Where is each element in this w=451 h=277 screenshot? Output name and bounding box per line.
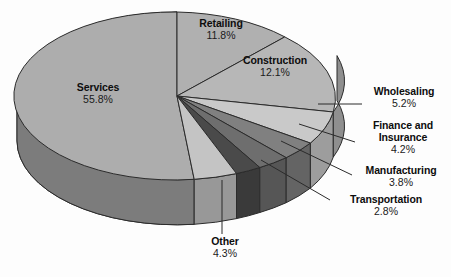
slice-label-services-percent: 55.8% bbox=[56, 94, 140, 106]
slice-label-services-name: Services bbox=[56, 82, 140, 94]
slice-label-manufacturing-percent: 3.8% bbox=[352, 177, 450, 189]
slice-label-finance-name2: Insurance bbox=[358, 132, 448, 144]
side-wall-other bbox=[194, 174, 236, 225]
slice-label-wholesaling-percent: 5.2% bbox=[360, 98, 448, 110]
slice-label-retailing-name: Retailing bbox=[183, 18, 259, 30]
slice-label-construction-name: Construction bbox=[228, 55, 322, 67]
slice-label-other-name: Other bbox=[194, 236, 256, 248]
slice-label-wholesaling-name: Wholesaling bbox=[360, 86, 448, 98]
slice-label-manufacturing: Manufacturing 3.8% bbox=[352, 165, 450, 189]
slice-label-services: Services 55.8% bbox=[56, 82, 140, 106]
slice-label-finance: Finance and Insurance 4.2% bbox=[358, 120, 448, 155]
slice-label-transportation-percent: 2.8% bbox=[322, 206, 450, 218]
slice-label-retailing: Retailing 11.8% bbox=[183, 18, 259, 42]
slice-label-finance-percent: 4.2% bbox=[358, 144, 448, 156]
side-wall-transportation bbox=[237, 168, 260, 219]
slice-label-construction-percent: 12.1% bbox=[228, 67, 322, 79]
slice-label-wholesaling: Wholesaling 5.2% bbox=[360, 86, 448, 110]
slice-label-construction: Construction 12.1% bbox=[228, 55, 322, 79]
slice-label-transportation-name: Transportation bbox=[322, 194, 450, 206]
slice-label-other: Other 4.3% bbox=[194, 236, 256, 260]
slice-label-retailing-percent: 11.8% bbox=[183, 30, 259, 42]
slice-label-transportation: Transportation 2.8% bbox=[322, 194, 450, 218]
pie-chart-figure: Services 55.8% Retailing 11.8% Construct… bbox=[0, 0, 451, 277]
slice-label-manufacturing-name: Manufacturing bbox=[352, 165, 450, 177]
slice-label-other-percent: 4.3% bbox=[194, 248, 256, 260]
slice-label-finance-name: Finance and bbox=[358, 120, 448, 132]
